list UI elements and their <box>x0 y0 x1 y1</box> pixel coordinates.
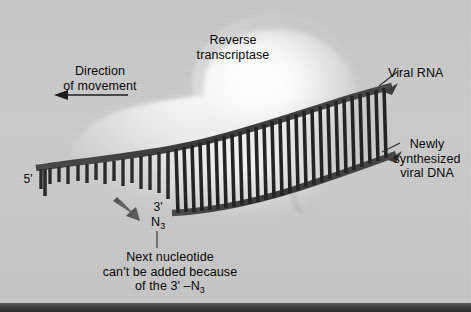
figure-reverse-transcriptase: Reverse transcriptase Direction of movem… <box>0 0 471 312</box>
azido-group-symbol: N <box>151 215 160 229</box>
caption-line-2: can't be added because <box>103 265 238 279</box>
newly-synthesized-viral-dna-label: Newly synthesized viral DNA <box>383 137 471 181</box>
caption-line-3: of the 3' –N <box>135 279 200 293</box>
direction-of-movement-label: Direction of movement <box>40 64 160 93</box>
azido-group-label: N3 <box>151 215 175 231</box>
caption-line-3-subscript: 3 <box>200 285 205 295</box>
viral-rna-label: Viral RNA <box>388 66 471 81</box>
enzyme-label: Reverse transcriptase <box>168 33 298 62</box>
caption-line-1: Next nucleotide <box>126 250 214 264</box>
chain-terminus-arrow <box>113 197 140 221</box>
five-prime-end-label: 5' <box>20 172 36 187</box>
chain-termination-caption: Next nucleotidecan't be added becauseof … <box>72 250 268 295</box>
three-prime-end-label: 3' <box>150 200 166 215</box>
figure-bottom-border <box>0 303 471 312</box>
base-pair-rungs-group <box>176 88 386 213</box>
azido-group-subscript: 3 <box>160 221 165 231</box>
